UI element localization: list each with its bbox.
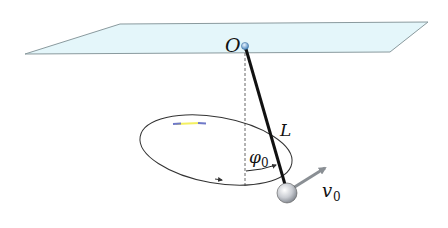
conical-pendulum-diagram: O L φ 0 v 0 xyxy=(0,0,448,228)
velocity-label: v xyxy=(322,180,332,201)
velocity-arrow xyxy=(293,168,325,188)
orbit-ellipse xyxy=(134,104,297,196)
angle-subscript: 0 xyxy=(261,156,269,170)
pendulum-bob xyxy=(277,183,297,203)
velocity-subscript: 0 xyxy=(333,190,341,204)
diagram-canvas: O L φ 0 v 0 xyxy=(0,0,448,228)
pivot-label: O xyxy=(225,34,241,56)
angle-label: φ xyxy=(249,147,261,167)
orbit-direction-arrow xyxy=(215,179,222,180)
pivot-point xyxy=(241,42,248,49)
length-label: L xyxy=(279,120,291,140)
